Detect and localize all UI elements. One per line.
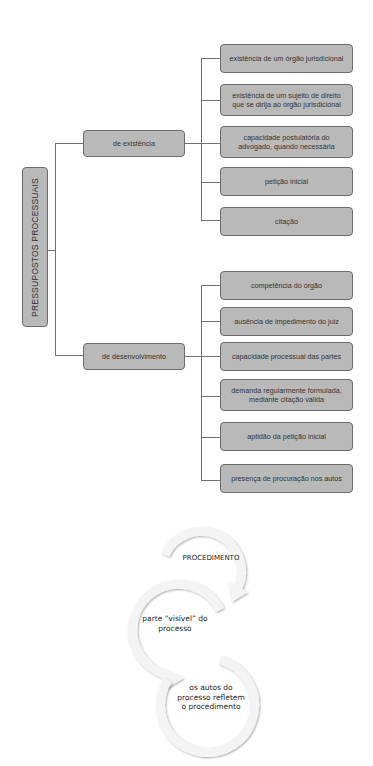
child-node: citação xyxy=(220,207,353,236)
child-node: petição inicial xyxy=(220,167,353,196)
child-label: aptidão da petição inicial xyxy=(247,432,326,441)
child-label: demanda regularmente formulada, mediante… xyxy=(231,386,341,404)
branch-node-existencia: de existência xyxy=(83,130,185,157)
child-node: capacidade processual das partes xyxy=(220,342,353,371)
root-node: PRESSUPOSTOS PROCESSUAIS xyxy=(22,167,48,327)
connector xyxy=(201,58,202,220)
connector xyxy=(185,143,201,144)
child-node: existência de um órgão jurisdicional xyxy=(220,44,353,73)
connector xyxy=(201,285,202,481)
connector xyxy=(201,100,220,101)
root-label: PRESSUPOSTOS PROCESSUAIS xyxy=(31,178,40,317)
connector xyxy=(201,220,220,221)
child-node: aptidão da petição inicial xyxy=(220,422,353,451)
connector xyxy=(201,182,220,183)
connector xyxy=(201,285,220,286)
child-label: existência de um sujeito de direito que … xyxy=(232,91,341,109)
cycle-arc-2 xyxy=(133,584,220,690)
child-label: competência do órgão xyxy=(251,281,322,290)
child-node: demanda regularmente formulada, mediante… xyxy=(220,379,353,411)
cycle-step-autos: os autos do processo refletem o procedim… xyxy=(172,683,250,712)
connector xyxy=(201,321,220,322)
connector xyxy=(201,480,220,481)
branch-label: de existência xyxy=(113,139,155,148)
connector xyxy=(201,356,220,357)
child-node: ausência de impedimento do juiz xyxy=(220,307,353,336)
cycle-step-parte-visivel: parte “visível” do processo xyxy=(140,614,210,633)
child-label: capacidade processual das partes xyxy=(232,352,341,361)
branch-label: de desenvolvimento xyxy=(102,352,166,361)
child-label: presença de procuração nos autos xyxy=(231,474,342,483)
connector xyxy=(55,355,83,356)
child-node: existência de um sujeito de direito que … xyxy=(220,84,353,116)
cycle-step-procedimento: PROCEDIMENTO xyxy=(176,554,246,564)
connector xyxy=(201,58,220,59)
child-label: petição inicial xyxy=(265,177,308,186)
child-label: ausência de impedimento do juiz xyxy=(234,317,339,326)
child-node: capacidade postulatória do advogado, qua… xyxy=(220,126,353,158)
connector xyxy=(55,143,56,356)
child-label: capacidade postulatória do advogado, qua… xyxy=(238,133,334,151)
connector xyxy=(201,396,220,397)
child-label: citação xyxy=(275,217,298,226)
connector xyxy=(201,143,220,144)
child-node: presença de procuração nos autos xyxy=(220,464,353,493)
connector xyxy=(201,437,220,438)
connector xyxy=(55,143,83,144)
child-node: competência do órgão xyxy=(220,271,353,300)
branch-node-desenvolvimento: de desenvolvimento xyxy=(83,343,185,370)
child-label: existência de um órgão jurisdicional xyxy=(230,54,344,63)
cycle-arc-1 xyxy=(165,531,248,602)
connector xyxy=(185,356,201,357)
